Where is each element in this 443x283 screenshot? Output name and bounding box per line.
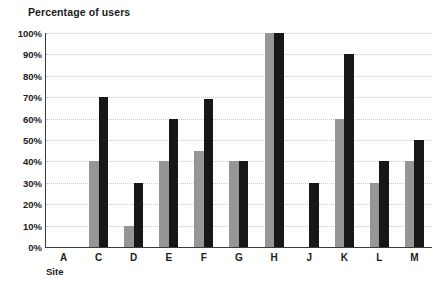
bar [335, 119, 345, 247]
bar-group [292, 33, 327, 247]
x-axis-tick-label: E [165, 252, 172, 263]
bar-group [81, 33, 116, 247]
bar-group [257, 33, 292, 247]
bar-group [397, 33, 432, 247]
bar [414, 140, 424, 247]
x-axis-label: Site [46, 266, 63, 277]
plot-area: 0%10%20%30%40%50%60%70%80%90%100% [46, 33, 432, 247]
bar [204, 99, 214, 247]
x-axis-tick-label: L [376, 252, 382, 263]
bar [405, 161, 415, 247]
y-axis-tick-label: 100% [4, 28, 42, 39]
bar-group [327, 33, 362, 247]
bar-group [186, 33, 221, 247]
bar [239, 161, 249, 247]
y-axis-tick-label: 70% [4, 92, 42, 103]
y-axis-tick-label: 10% [4, 220, 42, 231]
bar [344, 54, 354, 247]
x-axis-line [46, 247, 432, 248]
x-axis-tick-label: M [410, 252, 418, 263]
bar [370, 183, 380, 247]
bar [229, 161, 239, 247]
x-axis-tick-label: C [95, 252, 102, 263]
y-axis-tick-label: 30% [4, 177, 42, 188]
x-axis-tick-label: K [341, 252, 348, 263]
x-axis-tick-label: J [306, 252, 312, 263]
y-axis-line [45, 33, 46, 248]
bar-group [46, 33, 81, 247]
y-axis-tick-label: 60% [4, 113, 42, 124]
bar-group [151, 33, 186, 247]
bar [274, 33, 284, 247]
bar [124, 226, 134, 247]
y-axis-tick-label: 90% [4, 49, 42, 60]
bar-group [116, 33, 151, 247]
bar [99, 97, 109, 247]
x-axis-tick-label: H [270, 252, 277, 263]
x-axis-tick-label: D [130, 252, 137, 263]
x-axis-tick-label: G [235, 252, 243, 263]
bar [265, 33, 275, 247]
y-axis-tick-label: 80% [4, 70, 42, 81]
bar [194, 151, 204, 247]
bar [89, 161, 99, 247]
bar [134, 183, 144, 247]
bar [159, 161, 169, 247]
bar [379, 161, 389, 247]
y-axis-tick-label: 20% [4, 199, 42, 210]
bar [169, 119, 179, 247]
y-axis-tick-label: 0% [4, 242, 42, 253]
x-axis-tick-label: A [60, 252, 67, 263]
chart-title: Percentage of users [28, 6, 130, 18]
x-axis-tick-label: F [201, 252, 207, 263]
y-axis-tick-label: 40% [4, 156, 42, 167]
y-axis-tick-label: 50% [4, 135, 42, 146]
bar-chart: Percentage of users 0%10%20%30%40%50%60%… [0, 0, 443, 283]
bar-group [221, 33, 256, 247]
bar [309, 183, 319, 247]
bar-group [362, 33, 397, 247]
